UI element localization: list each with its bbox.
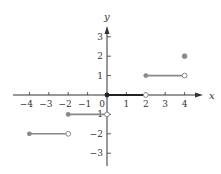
y-axis-arrow-icon <box>105 26 110 34</box>
y-tick-label: 3 <box>97 32 103 42</box>
open-endpoint-icon <box>143 93 148 98</box>
x-axis-label: x <box>209 90 215 101</box>
x-tick-label: 4 <box>182 99 188 109</box>
open-endpoint-icon <box>182 73 187 78</box>
closed-endpoint-icon <box>66 112 71 117</box>
closed-endpoint-icon <box>27 131 32 136</box>
y-axis-label: y <box>103 11 110 22</box>
x-tick-label: −1 <box>78 99 91 109</box>
open-endpoint-icon <box>105 112 110 117</box>
open-endpoint-icon <box>66 131 71 136</box>
x-tick-label: −4 <box>20 99 34 109</box>
closed-endpoint-icon <box>143 73 148 78</box>
x-tick-label: −3 <box>39 99 53 109</box>
plot-area: xy−4−3−2−101234−3−2−1123 <box>0 0 221 174</box>
y-tick-label: −3 <box>90 148 104 158</box>
x-tick-label: −2 <box>59 99 72 109</box>
x-tick-label: 1 <box>124 99 130 109</box>
x-tick-label: 3 <box>162 99 168 109</box>
x-tick-label: 0 <box>99 99 105 109</box>
y-tick-label: 1 <box>97 71 103 81</box>
x-tick-label: 2 <box>143 99 149 109</box>
step-function-graph: xy−4−3−2−101234−3−2−1123 <box>0 0 221 174</box>
closed-endpoint-icon <box>105 93 110 98</box>
isolated-point-icon <box>182 54 187 59</box>
y-tick-label: 2 <box>97 51 103 61</box>
x-axis-arrow-icon <box>195 93 203 98</box>
y-tick-label: −2 <box>90 129 103 139</box>
